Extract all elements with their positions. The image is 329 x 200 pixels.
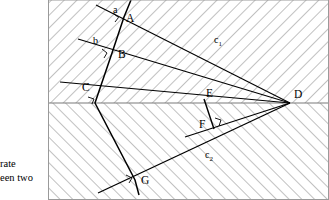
caption-line-2: een two	[0, 171, 48, 185]
point-label-E: E	[206, 87, 213, 99]
line-label-a: a	[113, 4, 118, 15]
caption-text: rate een two	[0, 157, 48, 185]
hatch-lower-halfplane	[48, 103, 329, 200]
figure-page: A B C D E F G a b c1 c2 rate een two	[0, 0, 329, 200]
point-label-C: C	[82, 81, 90, 93]
point-label-D: D	[294, 88, 302, 100]
point-label-A: A	[126, 12, 135, 24]
point-label-F: F	[199, 118, 205, 130]
point-label-G: G	[141, 174, 149, 186]
caption-line-1: rate	[0, 157, 48, 171]
line-label-b: b	[93, 35, 98, 46]
line-label-c1-sub: 1	[218, 40, 222, 48]
point-label-B: B	[118, 48, 126, 60]
geometry-figure: A B C D E F G a b c1 c2	[0, 0, 329, 200]
line-label-c2-sub: 2	[209, 155, 213, 163]
